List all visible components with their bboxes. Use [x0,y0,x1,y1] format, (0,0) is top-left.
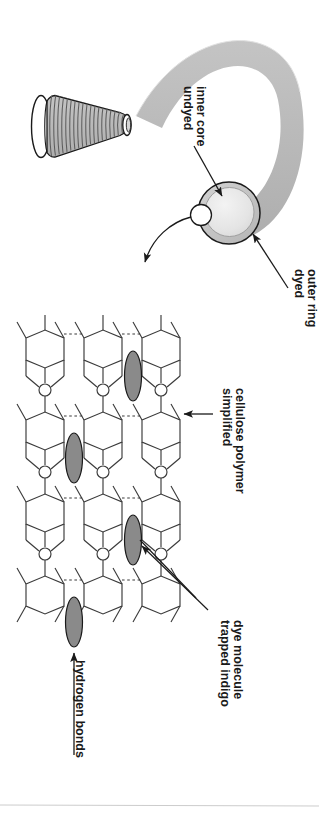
label-trapped-indigo-dye: trapped indigo dye molecule [218,620,246,707]
undyed-core-leader [194,146,222,196]
yarn-spool-group [32,94,132,159]
dye-molecule-ellipse [125,351,142,401]
spool-body [47,96,129,158]
dye-molecule-ellipse [66,433,83,483]
label-dyed-line-1: dyed [292,269,306,298]
footer-rule [0,805,319,806]
magnify-source-circle [191,205,212,226]
spool-tip-inner [126,118,130,132]
oxygen-node [39,384,51,396]
label-hydrogen-bonds: hydrogen bonds [73,660,87,758]
label-dye-line-1: trapped indigo [218,620,232,707]
oxygen-node [97,384,109,396]
polymer-chain-a [17,315,64,622]
label-undyed-inner-core: undyed inner core [181,86,209,146]
label-cellulose-line-1: simplified [220,388,234,446]
oxygen-node [97,466,109,478]
magnify-curved-arrow [145,217,191,262]
dye-molecule-leader-2 [140,540,196,598]
dye-molecule-ellipse [66,597,83,647]
label-undyed-line-2: inner core [194,86,208,146]
label-simplified-cellulose-polymer: simplified cellulose polymer [220,388,248,494]
cellulose-hexagon-ring [26,330,64,368]
dye-molecule-ellipse [125,515,142,565]
cellulose-polymer-network [17,315,180,622]
yarn-cross-section-core [205,188,254,237]
oxygen-node [39,548,51,560]
figure-root: undyed inner core dyed outer ring [0,0,319,837]
label-undyed-line-1: undyed [181,86,195,130]
label-dyed-line-2: outer ring [305,269,319,327]
diagram-canvas: undyed inner core dyed outer ring [0,0,319,837]
label-hydrogen-bonds-text: hydrogen bonds [73,660,87,758]
label-dyed-outer-ring: dyed outer ring [292,269,319,327]
label-dye-line-2: dye molecule [231,620,245,699]
oxygen-node [97,548,109,560]
oxygen-node [39,466,51,478]
oxygen-node [155,384,167,396]
label-cellulose-line-2: cellulose polymer [233,388,247,494]
dyed-ring-leader [253,234,288,288]
dye-molecule-leader-1 [142,546,208,610]
oxygen-node [155,466,167,478]
yarn-cross-section [191,182,261,244]
